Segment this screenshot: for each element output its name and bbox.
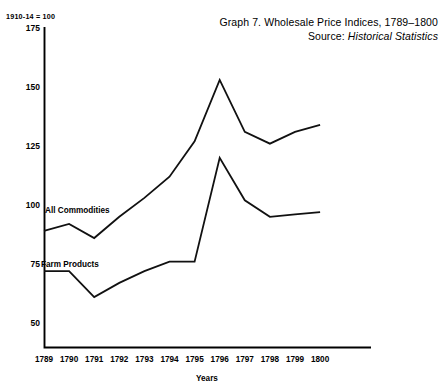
x-tick-label: 1793 bbox=[135, 355, 154, 364]
chart-figure: 1910-14 = 100 Graph 7. Wholesale Price I… bbox=[0, 0, 442, 386]
series-label-all-commodities: All Commodities bbox=[45, 206, 110, 215]
y-tick-label: 150 bbox=[26, 82, 40, 92]
x-tick-label: 1798 bbox=[261, 355, 280, 364]
axis-lines bbox=[45, 27, 372, 348]
series-label-farm-products: Farm Products bbox=[41, 260, 99, 269]
x-tick-label: 1796 bbox=[211, 355, 230, 364]
x-tick-label: 1791 bbox=[85, 355, 104, 364]
x-tick-label: 1794 bbox=[160, 355, 179, 364]
x-tick-label: 1797 bbox=[236, 355, 255, 364]
x-tick-label: 1795 bbox=[185, 355, 204, 364]
y-tick-label: 50 bbox=[31, 318, 41, 328]
series-line-farm-products bbox=[44, 158, 320, 297]
y-tick-label: 125 bbox=[26, 141, 40, 151]
x-tick-label: 1790 bbox=[60, 355, 79, 364]
x-tick-label: 1792 bbox=[110, 355, 129, 364]
y-tick-label: 100 bbox=[26, 200, 40, 210]
x-tick-label: 1800 bbox=[311, 355, 330, 364]
series-farm-products bbox=[44, 158, 320, 297]
x-tick-label: 1789 bbox=[35, 355, 54, 364]
x-axis-tick-labels: 1789179017911792179317941795179617971798… bbox=[35, 355, 330, 364]
x-axis-title: Years bbox=[196, 374, 218, 383]
y-tick-label: 75 bbox=[31, 259, 41, 269]
x-tick-label: 1799 bbox=[286, 355, 305, 364]
plot-area: 175 150 125 100 75 50 All Commodities Fa… bbox=[0, 0, 442, 386]
y-tick-label: 175 bbox=[26, 23, 40, 33]
y-axis-tick-labels: 175 150 125 100 75 50 bbox=[26, 23, 40, 328]
